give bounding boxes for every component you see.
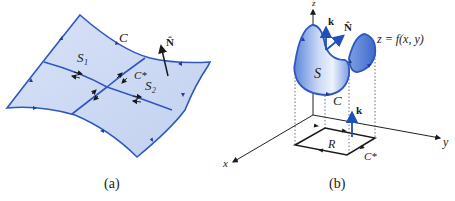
label-projected-curve-cstar: C*: [364, 150, 377, 162]
label-k-bottom: k: [356, 104, 363, 116]
caption-a: (a): [104, 176, 120, 192]
label-normal-n-b: N̂: [344, 21, 352, 33]
figure-a: C N̂ S₁ C* S₂ (a): [7, 15, 210, 192]
y-axis: [313, 115, 440, 138]
label-surface-s: S: [314, 66, 321, 81]
label-x-axis: x: [222, 157, 228, 169]
label-curve-c-b: C: [333, 93, 342, 108]
label-surface-s2: S₂: [145, 78, 157, 93]
label-curve-c: C: [119, 30, 128, 45]
label-region-r: R: [327, 137, 336, 151]
label-k-top: k: [328, 15, 335, 27]
normal-vector-b: [326, 36, 343, 50]
label-surface-s1: S₁: [77, 50, 88, 65]
x-axis: [233, 115, 313, 162]
label-z-axis: z: [311, 0, 316, 8]
surface-s-left: [294, 25, 349, 95]
surface-s-right: [349, 34, 375, 72]
label-equation: z = f(x, y): [376, 32, 424, 46]
label-y-axis: y: [442, 135, 449, 149]
caption-b: (b): [329, 176, 346, 192]
figure-b: z y x k N̂ z = f(x, y) S C k R C* (b): [222, 0, 449, 192]
stokes-theorem-figure: C N̂ S₁ C* S₂ (a): [0, 0, 455, 201]
label-normal-n: N̂: [166, 36, 174, 48]
